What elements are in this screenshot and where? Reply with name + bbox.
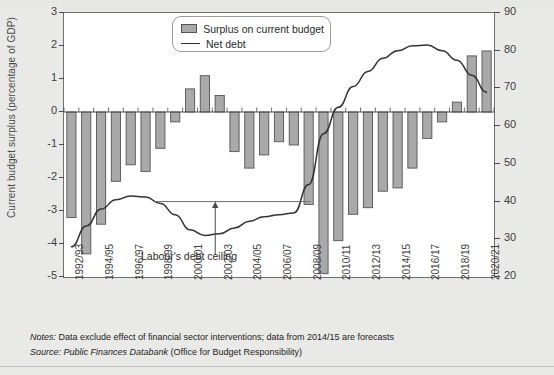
source-line: Source: Public Finances Databank (Office… xyxy=(30,345,302,359)
x-tick-2008-09: 2008/09 xyxy=(312,244,323,280)
legend-line-swatch-icon xyxy=(181,43,200,44)
right-tick-80: 80 xyxy=(504,43,530,55)
left-tick-3: 3 xyxy=(31,5,57,17)
bar-2004/05 xyxy=(245,112,254,168)
bar-2001/02 xyxy=(200,76,209,112)
legend-label-netdebt: Net debt xyxy=(206,38,246,50)
source-prefix: Source: xyxy=(30,347,61,357)
left-tick-mark xyxy=(59,243,64,244)
bar-2012/13 xyxy=(363,112,372,208)
bar-2019/20 xyxy=(467,56,476,112)
bar-1999/00 xyxy=(171,112,180,122)
bar-2008/09 xyxy=(304,112,313,204)
right-tick-mark xyxy=(494,50,500,51)
left-tick-1: 1 xyxy=(31,71,57,83)
bar-2020/21 xyxy=(482,51,491,112)
bar-2011/12 xyxy=(349,112,358,214)
left-tick-mark xyxy=(59,45,64,46)
right-tick-40: 40 xyxy=(504,194,530,206)
bar-2000/01 xyxy=(185,89,194,112)
right-tick-60: 60 xyxy=(504,118,530,130)
left-tick--4: -4 xyxy=(31,236,57,248)
bar-1996/97 xyxy=(126,112,135,165)
figure-container: Current budget surplus (percentage of GD… xyxy=(0,0,554,375)
footer-divider xyxy=(0,366,554,367)
legend-item-surplus: Surplus on current budget xyxy=(181,21,324,36)
left-tick-2: 2 xyxy=(31,38,57,50)
x-tick-2018-19: 2018/19 xyxy=(460,244,471,280)
left-tick--3: -3 xyxy=(31,203,57,215)
chart-canvas xyxy=(64,13,494,277)
bar-1995/96 xyxy=(111,112,120,181)
legend-item-netdebt: Net debt xyxy=(181,36,324,51)
bar-1998/99 xyxy=(156,112,165,148)
x-tick-1994-95: 1994/95 xyxy=(104,244,115,280)
bar-2003/04 xyxy=(230,112,239,152)
annotation-label: Labour's debt ceiling xyxy=(141,250,237,262)
bar-2013/14 xyxy=(378,112,387,191)
right-tick-mark xyxy=(494,87,500,88)
figure-top-trim xyxy=(0,0,554,9)
x-tick-2004-05: 2004/05 xyxy=(252,244,263,280)
legend-label-surplus: Surplus on current budget xyxy=(203,23,324,35)
bar-2010/11 xyxy=(334,112,343,241)
bar-2005/06 xyxy=(260,112,269,155)
x-tick-2014-15: 2014/15 xyxy=(401,244,412,280)
notes-text: Data exclude effect of financial sector … xyxy=(56,332,394,342)
right-tick-mark xyxy=(494,12,500,13)
right-tick-90: 90 xyxy=(504,5,530,17)
left-axis-title: Current budget surplus (percentage of GD… xyxy=(6,3,17,233)
left-tick--1: -1 xyxy=(31,137,57,149)
bar-2002/03 xyxy=(215,96,224,113)
left-tick-mark xyxy=(59,177,64,178)
bar-2007/08 xyxy=(289,112,298,145)
bar-1997/98 xyxy=(141,112,150,171)
left-tick--2: -2 xyxy=(31,170,57,182)
x-tick-2006-07: 2006/07 xyxy=(282,244,293,280)
x-tick-2020-21: 2020/21 xyxy=(490,244,501,280)
left-tick--5: -5 xyxy=(31,269,57,281)
chart-legend: Surplus on current budget Net debt xyxy=(172,16,331,52)
right-tick-50: 50 xyxy=(504,156,530,168)
bar-1992/93 xyxy=(67,112,76,218)
bar-2016/17 xyxy=(423,112,432,138)
bar-2014/15 xyxy=(393,112,402,188)
left-tick-mark xyxy=(59,111,64,112)
left-tick-mark xyxy=(59,276,64,277)
x-tick-2016-17: 2016/17 xyxy=(430,244,441,280)
source-rest: (Office for Budget Responsibility) xyxy=(168,347,302,357)
bar-2015/16 xyxy=(408,112,417,168)
bar-1993/94 xyxy=(82,112,91,254)
notes-line: Notes: Data exclude effect of financial … xyxy=(30,330,394,344)
x-tick-2010-11: 2010/11 xyxy=(341,245,352,280)
left-tick-mark xyxy=(59,144,64,145)
up-arrow-icon xyxy=(212,202,218,209)
x-tick-1992-93: 1992/93 xyxy=(74,244,85,280)
right-tick-mark xyxy=(494,238,500,239)
left-tick-0: 0 xyxy=(31,104,57,116)
right-tick-mark xyxy=(494,125,500,126)
source-databank-name: Public Finances Databank xyxy=(61,347,168,357)
notes-prefix: Notes: xyxy=(30,332,56,342)
right-tick-mark xyxy=(494,201,500,202)
right-tick-30: 30 xyxy=(504,231,530,243)
left-tick-mark xyxy=(59,12,64,13)
bar-2018/19 xyxy=(452,102,461,112)
x-tick-2012-13: 2012/13 xyxy=(371,244,382,280)
bar-2006/07 xyxy=(274,112,283,142)
bar-2017/18 xyxy=(438,112,447,122)
right-tick-mark xyxy=(494,163,500,164)
left-tick-mark xyxy=(59,210,64,211)
legend-bar-swatch-icon xyxy=(181,24,197,33)
left-tick-mark xyxy=(59,78,64,79)
right-tick-70: 70 xyxy=(504,80,530,92)
right-tick-20: 20 xyxy=(504,269,530,281)
